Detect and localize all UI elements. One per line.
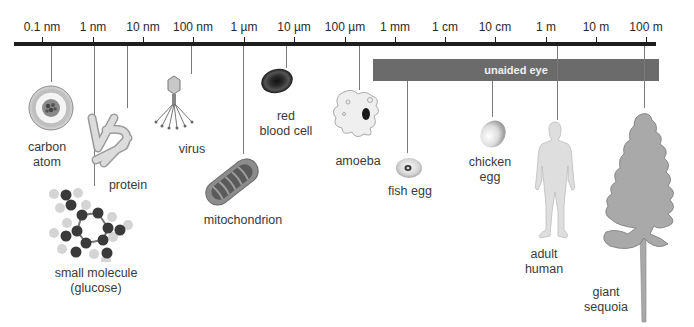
leader-virus <box>191 46 192 74</box>
carbon-atom-icon <box>27 84 75 132</box>
tick-mark <box>646 37 647 43</box>
protein-icon <box>84 108 140 170</box>
tick-mark <box>143 37 144 43</box>
unaided-eye-label: unaided eye <box>484 64 548 76</box>
small-molecule-label: small molecule (glucose) <box>55 266 138 296</box>
tick-label: 100 µm <box>325 20 365 34</box>
tick-mark <box>546 37 547 43</box>
tick-mark <box>42 37 43 43</box>
virus-icon <box>150 74 198 130</box>
leader-amoeba <box>359 46 360 90</box>
tick-label: 10 nm <box>126 20 159 34</box>
chicken-egg-label: chicken egg <box>469 155 511 185</box>
glucose-molecule-icon <box>46 180 138 262</box>
leader-adult-human <box>557 46 558 120</box>
red-blood-cell-icon <box>260 67 294 95</box>
tick-mark <box>93 37 94 43</box>
leader-fish-egg <box>407 81 408 153</box>
leader-mitochondrion <box>243 46 244 154</box>
leader-giant-sequoia <box>644 46 645 108</box>
tick-label: 0.1 nm <box>24 20 61 34</box>
chicken-egg-icon <box>478 118 508 150</box>
amoeba-label: amoeba <box>335 154 380 169</box>
tick-mark <box>193 37 194 43</box>
tick-label: 100 m <box>629 20 662 34</box>
mitochondrion-label: mitochondrion <box>204 213 283 228</box>
leader-chicken-egg <box>492 81 493 117</box>
tick-mark <box>596 37 597 43</box>
amoeba-icon <box>330 88 382 140</box>
tick-mark <box>445 37 446 43</box>
tick-label: 1 cm <box>432 20 458 34</box>
mitochondrion-icon <box>200 154 264 210</box>
tick-label: 1 µm <box>231 20 258 34</box>
tick-label: 1 mm <box>380 20 410 34</box>
tick-mark <box>345 37 346 43</box>
tick-label: 10 µm <box>277 20 311 34</box>
tick-mark <box>294 37 295 43</box>
adult-human-icon <box>528 120 582 242</box>
tick-label: 1 nm <box>80 20 107 34</box>
fish-egg-icon <box>395 157 423 179</box>
tick-label: 1 m <box>536 20 556 34</box>
tick-label: 10 m <box>583 20 610 34</box>
tick-mark <box>244 37 245 43</box>
tick-label: 10 cm <box>479 20 512 34</box>
carbon-atom-label: carbon atom <box>28 140 66 170</box>
tick-label: 100 nm <box>173 20 213 34</box>
leader-carbon-atom <box>51 46 52 82</box>
tick-mark <box>395 37 396 43</box>
fish-egg-label: fish egg <box>388 184 432 199</box>
unaided-eye-bar: unaided eye <box>373 59 659 81</box>
leader-protein <box>127 46 128 108</box>
tick-mark <box>495 37 496 43</box>
scale-axis <box>14 42 656 46</box>
red-blood-cell-label: red blood cell <box>260 109 313 139</box>
giant-sequoia-label: giant sequoia <box>584 285 628 315</box>
adult-human-label: adult human <box>525 247 563 277</box>
leader-red-blood-cell <box>286 46 287 68</box>
